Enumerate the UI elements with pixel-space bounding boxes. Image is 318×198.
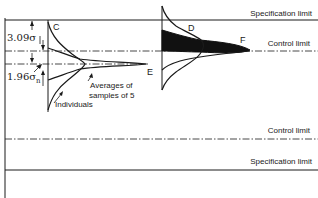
arrow-head-down-icon: [30, 58, 34, 63]
upper-specification-limit-label: Specification limit: [250, 10, 312, 18]
arrow-head-down-icon: [41, 45, 45, 50]
lower-gap-subscript: n: [36, 77, 41, 85]
upper-control-limit-label: Control limit: [268, 40, 310, 48]
arrow-head-icon: [89, 73, 93, 78]
lower-gap-main: 1.96σ: [7, 71, 36, 82]
averages-tail-curve: [162, 51, 250, 70]
averages-annotation-line1: Averages of: [90, 82, 133, 90]
arrow-head-up-icon: [41, 70, 45, 75]
point-c-label: C: [53, 23, 60, 32]
right-distribution: [162, 6, 250, 90]
averages-annotation-line2: samples of 5: [89, 92, 134, 100]
point-d-label: D: [188, 24, 195, 33]
shifted-averages-curve: [162, 30, 250, 53]
control-chart-diagram: [0, 0, 318, 198]
upper-gap-label: 3.09σ: [7, 33, 36, 43]
lower-control-limit-label: Control limit: [268, 127, 310, 135]
lower-gap-label: 1.96σn: [7, 72, 41, 85]
lower-specification-limit-label: Specification limit: [250, 158, 312, 166]
arrow-head-icon: [36, 64, 42, 69]
individuals-curve: [48, 22, 85, 110]
individuals-annotation: Individuals: [55, 101, 93, 109]
point-e-label: E: [147, 68, 153, 77]
arrow-head-up-icon: [30, 21, 34, 26]
point-f-label: F: [240, 36, 246, 45]
arrow-head-icon: [59, 91, 63, 96]
